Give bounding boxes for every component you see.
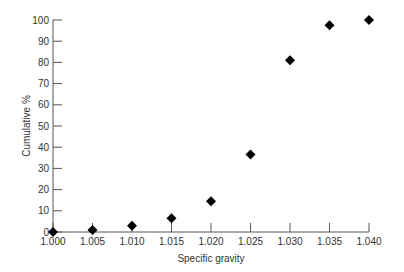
x-tick-label: 1.005 [80, 236, 105, 247]
x-tick-label: 1.020 [198, 236, 223, 247]
y-tick-label: 80 [38, 57, 50, 68]
y-tick-label: 90 [38, 36, 50, 47]
y-tick-label: 50 [38, 121, 50, 132]
x-tick-label: 1.010 [119, 236, 144, 247]
diamond-marker [285, 55, 295, 65]
x-tick-label: 1.015 [159, 236, 184, 247]
data-points [48, 15, 374, 237]
y-axis-label: Cumulative % [21, 95, 32, 157]
y-tick-label: 30 [38, 163, 50, 174]
y-tick-label: 100 [32, 15, 49, 26]
x-axis-label: Specific gravity [177, 253, 244, 264]
scatter-chart: 0102030405060708090100 1.0001.0051.0101.… [0, 0, 404, 272]
diamond-marker [127, 221, 137, 231]
diamond-marker [325, 20, 335, 30]
y-tick-label: 70 [38, 78, 50, 89]
diamond-marker [167, 213, 177, 223]
y-tick-label: 20 [38, 184, 50, 195]
y-tick-label: 60 [38, 99, 50, 110]
diamond-marker [364, 15, 374, 25]
x-tick-label: 1.030 [277, 236, 302, 247]
x-tick-label: 1.040 [356, 236, 381, 247]
y-tick-label: 40 [38, 142, 50, 153]
x-tick-label: 1.025 [238, 236, 263, 247]
x-tick-label: 1.035 [317, 236, 342, 247]
y-tick-label: 10 [38, 205, 50, 216]
diamond-marker [246, 150, 256, 160]
x-tick-label: 1.000 [40, 236, 65, 247]
diamond-marker [206, 196, 216, 206]
y-axis: 0102030405060708090100 [32, 15, 62, 238]
diamond-marker [88, 225, 98, 235]
